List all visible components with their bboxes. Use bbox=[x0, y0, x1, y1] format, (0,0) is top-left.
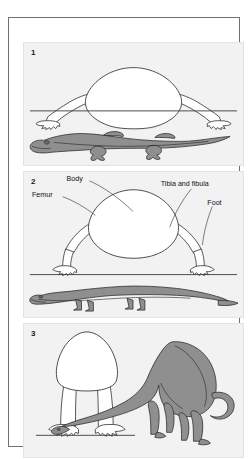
panel-2-illustration: Body Femur Tibia and fibula Foot bbox=[24, 172, 243, 317]
sprawling-front-view bbox=[30, 68, 237, 130]
figure-root: 1 bbox=[0, 0, 249, 459]
figure-outer-frame: 1 bbox=[8, 17, 240, 447]
panel-semi-erect-posture: 2 bbox=[23, 171, 244, 318]
panel-3-illustration bbox=[24, 324, 243, 457]
panel-erect-posture: 3 bbox=[23, 323, 244, 458]
panel-sprawling-posture: 1 bbox=[23, 42, 244, 166]
label-foot: Foot bbox=[207, 199, 221, 207]
semi-erect-front-view bbox=[30, 190, 237, 276]
label-body: Body bbox=[67, 175, 84, 183]
label-femur: Femur bbox=[32, 191, 53, 199]
label-tibia-and-fibula: Tibia and fibula bbox=[161, 180, 209, 188]
sprawling-side-view bbox=[30, 132, 230, 161]
panel-1-illustration bbox=[24, 43, 243, 165]
semi-erect-side-view bbox=[30, 286, 238, 311]
